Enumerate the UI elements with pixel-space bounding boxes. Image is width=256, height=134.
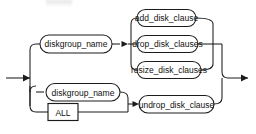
exit-arrow-icon [241,75,248,82]
node-add-disk-clause: add_disk_clause [135,10,199,27]
node-diskgroup-name-bottom: diskgroup_name [46,84,120,102]
node-label: diskgroup_name [52,88,115,98]
node-undrop-disk-clause: undrop_disk_clause [139,96,215,114]
scan-artifact [46,0,72,7]
arrow-to-choices-icon [122,41,129,47]
syntax-diagram: diskgroup_name add_disk_clause drop_disk… [0,0,256,134]
node-label: drop_disk_clauses [132,39,202,49]
node-label: ALL [55,108,70,118]
node-label: diskgroup_name [45,39,108,49]
node-all-keyword: ALL [48,104,78,121]
node-label: resize_disk_clauses [131,65,207,75]
entry-arrow-icon [23,75,30,82]
node-diskgroup-name-top: diskgroup_name [40,35,112,53]
node-resize-disk-clauses: resize_disk_clauses [131,62,207,79]
railroad-diagram-canvas: diskgroup_name add_disk_clause drop_disk… [0,0,256,134]
node-drop-disk-clauses: drop_disk_clauses [132,36,202,53]
node-label: undrop_disk_clause [139,100,215,110]
node-label: add_disk_clause [135,13,199,23]
